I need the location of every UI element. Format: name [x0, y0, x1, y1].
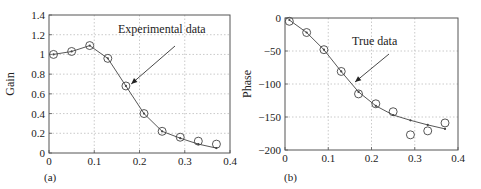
curve-vertex	[392, 114, 394, 116]
annotation-label: Experimental data	[118, 22, 206, 36]
chart-panel-phase: 00.10.20.30.40−50−100−150−200Phase(b)Tru…	[240, 12, 465, 184]
y-tick-label: 1.4	[31, 9, 45, 21]
curve-vertex	[306, 31, 308, 33]
data-point-marker	[406, 131, 414, 139]
x-tick-label: 0.1	[321, 152, 335, 164]
figure: 00.10.20.30.400.20.40.60.811.21.4Gain(a)…	[0, 0, 481, 189]
annotation-arrow	[131, 46, 175, 84]
curve-vertex	[197, 143, 199, 145]
panel-label: (a)	[44, 171, 57, 184]
curve-vertex	[89, 44, 91, 46]
x-tick-label: 0.4	[223, 155, 237, 167]
curve-vertex	[427, 124, 429, 126]
x-tick-label: 0.4	[451, 152, 465, 164]
y-tick-label: 0.8	[31, 68, 45, 80]
y-tick-label: 1.2	[31, 29, 45, 41]
y-tick-label: −200	[258, 144, 281, 156]
y-tick-label: 0.6	[31, 88, 45, 100]
curve-vertex	[323, 49, 325, 51]
curve-vertex	[215, 147, 217, 149]
x-tick-label: 0	[282, 152, 288, 164]
x-tick-label: 0	[46, 155, 52, 167]
x-tick-label: 0.2	[133, 155, 147, 167]
y-tick-label: 0	[40, 147, 46, 159]
curve-vertex	[357, 91, 359, 93]
annotation-label: True data	[352, 34, 398, 48]
panel-label: (b)	[284, 171, 297, 184]
y-tick-label: 0.2	[31, 127, 45, 139]
chart-panel-gain: 00.10.20.30.400.20.40.60.811.21.4Gain(a)…	[3, 9, 237, 184]
y-tick-label: −100	[258, 78, 281, 90]
model-curve	[54, 46, 217, 149]
y-tick-label: 1	[40, 48, 46, 60]
x-tick-label: 0.1	[87, 155, 101, 167]
curve-vertex	[288, 19, 290, 21]
x-tick-label: 0.3	[178, 155, 192, 167]
curve-vertex	[125, 85, 127, 87]
y-tick-label: −150	[258, 111, 281, 123]
curve-vertex	[107, 57, 109, 59]
curve-vertex	[161, 130, 163, 132]
curve-vertex	[52, 53, 54, 55]
curve-vertex	[179, 137, 181, 139]
curve-vertex	[409, 119, 411, 121]
x-tick-label: 0.2	[365, 152, 379, 164]
curve-vertex	[143, 112, 145, 114]
y-tick-label: −50	[264, 45, 282, 57]
y-tick-label: 0	[276, 12, 282, 24]
curve-vertex	[71, 50, 73, 52]
curve-vertex	[375, 105, 377, 107]
curve-vertex	[444, 128, 446, 130]
x-tick-label: 0.3	[408, 152, 422, 164]
y-axis-label: Phase	[240, 70, 254, 98]
data-point-marker	[212, 140, 220, 148]
data-point-marker	[441, 119, 449, 127]
curve-vertex	[340, 70, 342, 72]
y-tick-label: 0.4	[31, 108, 45, 120]
annotation-arrow	[355, 54, 389, 82]
y-axis-label: Gain	[3, 72, 17, 95]
data-point-marker	[424, 127, 432, 135]
